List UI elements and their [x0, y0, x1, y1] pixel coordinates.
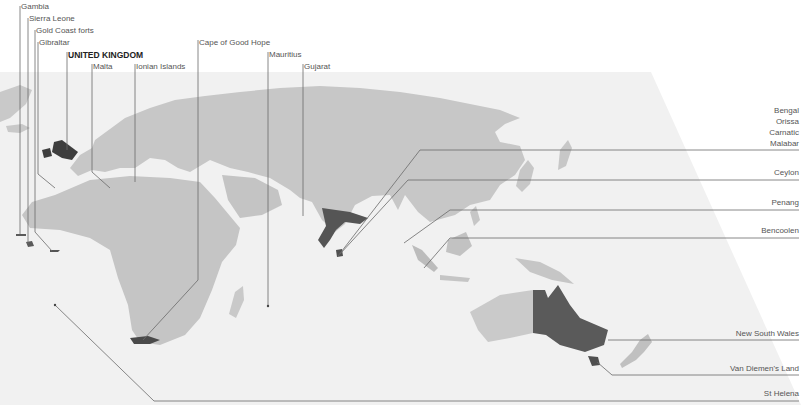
- label-gambia: Gambia: [21, 2, 49, 12]
- label-united-kingdom: UNITED KINGDOM: [68, 50, 143, 60]
- label-mauritius: Mauritius: [269, 50, 301, 60]
- label-bengal: Bengal: [774, 106, 799, 116]
- label-penang: Penang: [771, 198, 799, 208]
- label-malabar: Malabar: [770, 139, 799, 149]
- region-gambia: [16, 234, 26, 236]
- label-ceylon: Ceylon: [774, 168, 799, 178]
- label-gibraltar: Gibraltar: [39, 38, 70, 48]
- label-bencoolen: Bencoolen: [761, 226, 799, 236]
- label-van-diemens-land: Van Diemen's Land: [730, 364, 799, 374]
- label-malta: Malta: [93, 62, 113, 72]
- region-ceylon: [336, 249, 343, 257]
- marker-mauritius: [267, 305, 269, 307]
- label-gujarat: Gujarat: [304, 62, 330, 72]
- marker-st-helena: [54, 304, 56, 306]
- label-new-south-wales: New South Wales: [736, 329, 799, 339]
- label-sierra-leone: Sierra Leone: [29, 14, 75, 24]
- label-orissa: Orissa: [776, 117, 799, 127]
- label-gold-coast-forts: Gold Coast forts: [36, 26, 94, 36]
- world-map: [0, 0, 801, 412]
- label-ionian-islands: Ionian Islands: [136, 62, 185, 72]
- label-cape-of-good-hope: Cape of Good Hope: [199, 38, 270, 48]
- label-carnatic: Carnatic: [769, 128, 799, 138]
- label-st-helena: St Helena: [764, 389, 799, 399]
